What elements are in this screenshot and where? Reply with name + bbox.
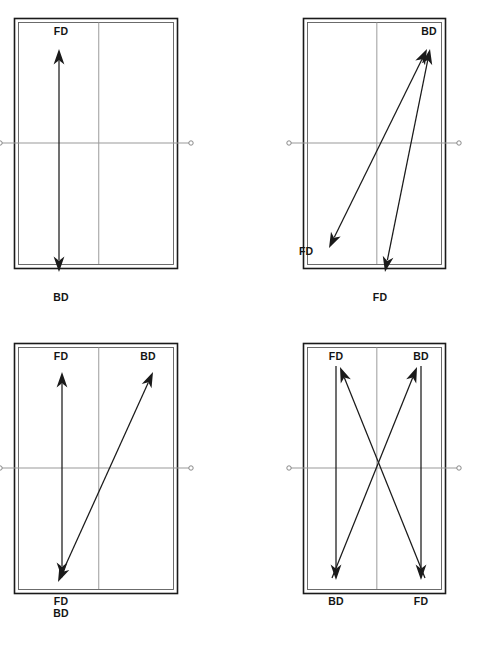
arrow-crosscourt-backhand (329, 49, 427, 248)
arrow-crosscourt-backhand-shaft (334, 59, 422, 237)
arrow-crosscourt-backhand (58, 372, 153, 582)
court-4-label-fd-bottomright: FD (414, 596, 428, 607)
court-4 (287, 344, 461, 594)
court-2-label-fd-bottomcenter: FD (373, 292, 387, 303)
court-2-net-post-right (457, 141, 461, 145)
court-1-label-fd-top: FD (54, 26, 68, 37)
arrow-straight-right-down (416, 366, 427, 580)
court-1-net-post-left (0, 141, 2, 145)
court-3-label-fd-bottomleft: FD (54, 596, 68, 607)
arrow-straight-left-down (331, 366, 342, 580)
arrow-straight-forehand-backhand (54, 49, 65, 272)
court-2 (287, 19, 461, 273)
court-4-label-fd-topleft: FD (329, 351, 343, 362)
court-1-label-bd-bottom: BD (53, 292, 69, 303)
court-4-net-post-right (457, 466, 461, 470)
arrow-crosscourt-up-right-shaft (332, 378, 413, 578)
court-4-label-bd-bottomleft: BD (328, 596, 344, 607)
court-1 (0, 19, 193, 273)
court-3 (0, 344, 193, 594)
badminton-drive-diagram-figure: FDBDBDFDFDFDBDFDBDFDBDBDFD (0, 0, 489, 650)
court-3-label-bd-bottomleft: BD (53, 608, 69, 619)
court-3-label-fd-topleft: FD (54, 351, 68, 362)
court-1-net-post-right (189, 141, 193, 145)
court-2-label-fd-bottomleft: FD (299, 246, 313, 257)
arrow-crosscourt-up-left-shaft (344, 378, 425, 578)
court-2-label-bd-topright: BD (421, 26, 437, 37)
court-4-net-post-left (287, 466, 291, 470)
arrow-straight-forehand (57, 372, 68, 578)
arrow-crosscourt-up-left (340, 367, 425, 578)
arrow-straight-backhand (383, 49, 432, 272)
court-3-net-post-left (0, 466, 2, 470)
arrow-crosscourt-up-right (332, 367, 417, 578)
arrow-crosscourt-backhand-head-start (329, 232, 341, 248)
court-2-net-post-left (287, 141, 291, 145)
courts-canvas (0, 0, 489, 650)
court-4-label-bd-topright: BD (413, 351, 429, 362)
court-3-net-post-right (189, 466, 193, 470)
arrow-straight-backhand-shaft (387, 60, 427, 260)
court-3-label-bd-topright: BD (140, 351, 156, 362)
arrow-crosscourt-backhand-shaft (63, 382, 148, 571)
